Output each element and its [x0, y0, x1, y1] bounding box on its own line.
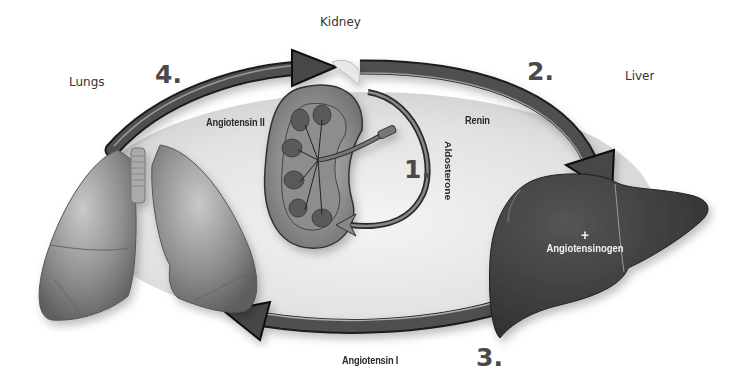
aldosterone-label: Aldosterone [443, 141, 454, 200]
step-1-number: 1. [404, 155, 431, 184]
liver-annotation: + Angiotensinogen [536, 228, 635, 254]
liver-illustration [489, 174, 708, 338]
angiotensin-i-label: Angiotensin I [342, 354, 398, 366]
raas-diagram: Kidney Liver Lungs 4. 2. 1. 3. Angiotens… [0, 0, 746, 389]
liver-label: Liver [625, 69, 654, 83]
diagram-graphics [0, 0, 746, 389]
step-3-number: 3. [476, 343, 503, 372]
step-4-number: 4. [155, 60, 182, 89]
angiotensinogen-label: Angiotensinogen [536, 242, 635, 254]
angiotensin-ii-label: Angiotensin II [206, 116, 265, 128]
plus-sign: + [536, 228, 635, 242]
kidney-label: Kidney [320, 15, 361, 29]
step-2-number: 2. [527, 57, 554, 86]
renin-label: Renin [465, 114, 490, 126]
lungs-label: Lungs [69, 75, 105, 89]
